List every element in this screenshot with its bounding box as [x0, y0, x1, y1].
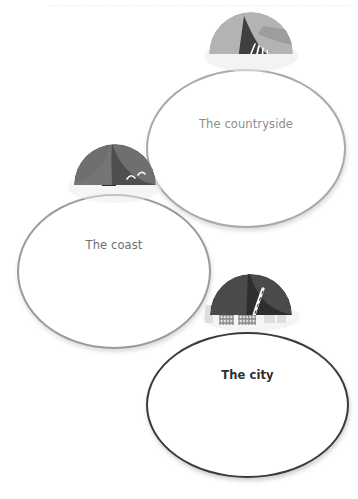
bubble-city[interactable]: The city [146, 332, 349, 478]
bubble-label-city: The city [148, 368, 347, 382]
bubble-label-countryside: The countryside [148, 117, 344, 131]
countryside-icon [203, 22, 299, 92]
bubble-label-coast: The coast [19, 238, 209, 252]
page-canvas: The countryside [0, 0, 358, 499]
dotted-rule-divider [48, 4, 350, 7]
bubble-countryside[interactable]: The countryside [146, 69, 346, 228]
city-icon [201, 275, 301, 348]
coast-icon [67, 147, 163, 222]
